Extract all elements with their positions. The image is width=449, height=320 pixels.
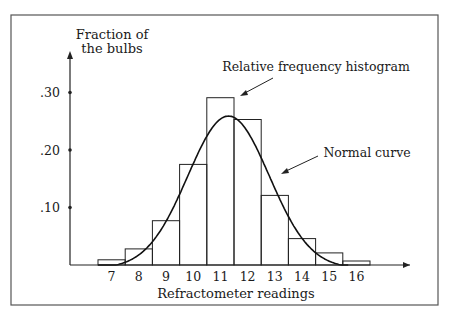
x-tick-label: 10: [185, 269, 201, 284]
histogram-arrow-head-icon: [240, 90, 248, 96]
histogram-bar: [288, 239, 315, 265]
y-tick-mark: [68, 206, 72, 210]
y-tick-mark: [68, 91, 72, 95]
y-tick-label: .20: [40, 143, 60, 158]
x-tick-label: 12: [240, 269, 256, 284]
histogram-bar: [261, 195, 288, 265]
x-axis-label: Refractometer readings: [157, 286, 314, 301]
normal-curve: [98, 116, 348, 265]
y-tick-mark: [68, 148, 72, 152]
x-tick-label: 7: [108, 269, 116, 284]
x-axis-arrow-icon: [403, 262, 410, 268]
normal-curve-arrow-head-icon: [281, 168, 289, 174]
y-tick-label: .10: [40, 200, 60, 215]
y-axis-arrow-icon: [67, 51, 73, 59]
histogram-bar: [207, 98, 234, 265]
normal-curve-annotation-arrow: [284, 156, 318, 172]
x-tick-label: 13: [267, 269, 283, 284]
histogram-chart: .10.20.30 78910111213141516 Fraction of …: [0, 0, 449, 320]
histogram-bar: [234, 120, 261, 266]
x-tick-labels: 78910111213141516: [108, 269, 365, 284]
histogram-bar: [180, 164, 207, 265]
histogram-bar: [316, 253, 343, 265]
y-axis-label-line2: the bulbs: [81, 41, 142, 56]
x-tick-label: 8: [135, 269, 143, 284]
x-tick-label: 16: [348, 269, 364, 284]
y-axis-label-line1: Fraction of: [76, 27, 150, 42]
histogram-bars: [98, 98, 370, 265]
histogram-annotation: Relative frequency histogram: [222, 59, 410, 74]
histogram-annotation-arrow: [243, 78, 273, 94]
y-ticks: .10.20.30: [40, 85, 72, 215]
x-tick-label: 15: [321, 269, 337, 284]
normal-curve-annotation: Normal curve: [323, 145, 410, 160]
histogram-bar: [125, 249, 152, 265]
x-tick-label: 9: [162, 269, 170, 284]
y-tick-label: .30: [40, 85, 60, 100]
x-tick-label: 11: [212, 269, 228, 284]
histogram-bar: [152, 221, 179, 265]
x-tick-label: 14: [294, 269, 310, 284]
